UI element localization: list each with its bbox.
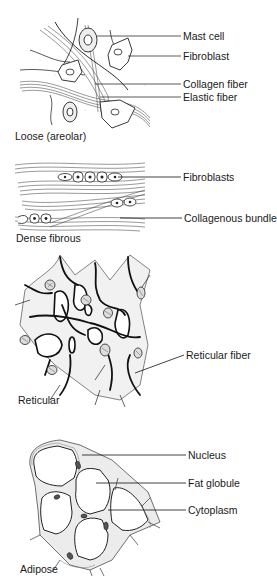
caption-dense-fibrous: Dense fibrous bbox=[16, 232, 81, 244]
label-collagenous-bundles: Collagenous bundles bbox=[184, 212, 277, 224]
adipose-illustration bbox=[0, 410, 277, 576]
caption-adipose: Adipose bbox=[20, 563, 58, 575]
caption-reticular: Reticular bbox=[18, 394, 59, 406]
label-fat-globule: Fat globule bbox=[188, 477, 240, 489]
label-fibroblasts: Fibroblasts bbox=[183, 171, 234, 183]
label-cytoplasm: Cytoplasm bbox=[188, 504, 238, 516]
panel-adipose: Nucleus Fat globule Cytoplasm Adipose bbox=[0, 410, 277, 576]
label-nucleus: Nucleus bbox=[188, 449, 226, 461]
panel-reticular: Reticular fiber Reticular bbox=[0, 245, 277, 410]
label-elastic-fiber: Elastic fiber bbox=[183, 91, 237, 103]
panel-dense-fibrous: Fibroblasts Collagenous bundles Dense fi… bbox=[0, 145, 277, 240]
label-collagen-fiber: Collagen fiber bbox=[183, 78, 248, 90]
label-mast-cell: Mast cell bbox=[183, 30, 224, 42]
loose-areolar-illustration bbox=[0, 0, 277, 145]
panel-loose-areolar: Mast cell Fibroblast Collagen fiber Elas… bbox=[0, 0, 277, 145]
caption-loose-areolar: Loose (areolar) bbox=[15, 130, 86, 142]
reticular-illustration bbox=[0, 245, 277, 410]
label-fibroblast: Fibroblast bbox=[183, 50, 229, 62]
dense-fibrous-illustration bbox=[0, 145, 277, 240]
label-reticular-fiber: Reticular fiber bbox=[186, 349, 251, 361]
